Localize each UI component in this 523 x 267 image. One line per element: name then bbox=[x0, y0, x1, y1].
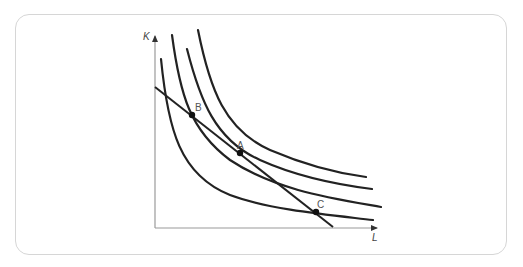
y-axis-label: K bbox=[143, 31, 151, 42]
point-a-label: A bbox=[237, 140, 244, 151]
point-c-label: C bbox=[317, 199, 324, 210]
point-b-label: B bbox=[195, 102, 202, 113]
isoquant-3 bbox=[187, 49, 372, 189]
isoquant-1 bbox=[161, 59, 373, 220]
isoquant-diagram: K L B A C bbox=[0, 0, 523, 267]
isocost-line bbox=[155, 87, 333, 227]
isoquant-2 bbox=[172, 35, 381, 207]
x-axis-label: L bbox=[372, 232, 378, 243]
